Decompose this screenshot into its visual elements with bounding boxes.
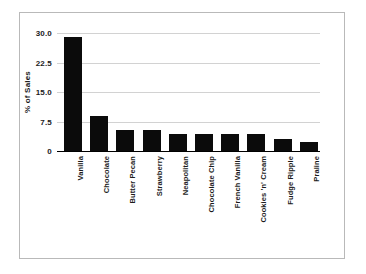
bar-slot bbox=[143, 33, 161, 151]
bar bbox=[64, 37, 82, 151]
bar bbox=[221, 134, 239, 151]
y-axis-tick-label: 22.5 bbox=[36, 58, 52, 67]
x-axis-category-label: Praline bbox=[312, 156, 321, 182]
y-axis-tick-label: 30.0 bbox=[36, 29, 52, 38]
x-axis-category-label: French Vanilla bbox=[233, 156, 242, 208]
bar-slot bbox=[116, 33, 134, 151]
bar-slot bbox=[274, 33, 292, 151]
plot-area: 07.515.022.530.0 bbox=[57, 33, 320, 151]
x-axis-category-label: Vanilla bbox=[76, 156, 85, 180]
y-axis-tick-label: 0 bbox=[47, 147, 52, 156]
x-axis-category-label: Strawberry bbox=[155, 156, 164, 196]
bar bbox=[90, 116, 108, 151]
x-axis-category-label: Fudge Ripple bbox=[286, 156, 295, 205]
bar-slot bbox=[90, 33, 108, 151]
x-axis-category-label: Neapolitan bbox=[181, 156, 190, 195]
x-axis-category-label: Chocolate bbox=[102, 156, 111, 193]
y-axis-tick-label: 15.0 bbox=[36, 88, 52, 97]
bar bbox=[195, 134, 213, 151]
bar bbox=[274, 139, 292, 151]
bar-slot bbox=[221, 33, 239, 151]
bar bbox=[116, 130, 134, 151]
bar bbox=[247, 134, 265, 151]
bar bbox=[143, 130, 161, 151]
y-axis-title: % of Sales bbox=[23, 71, 32, 113]
bar-slot bbox=[300, 33, 318, 151]
bar-slot bbox=[64, 33, 82, 151]
x-axis-category-label: Cookies 'n' Cream bbox=[259, 156, 268, 223]
bar bbox=[300, 142, 318, 151]
y-axis-tick-label: 7.5 bbox=[40, 117, 52, 126]
bar-slot bbox=[195, 33, 213, 151]
bar-series bbox=[57, 33, 320, 151]
x-axis-category-label: Chocolate Chip bbox=[207, 156, 216, 212]
bar-slot bbox=[169, 33, 187, 151]
bar bbox=[169, 134, 187, 151]
chart-figure: % of Sales 07.515.022.530.0 VanillaChoco… bbox=[0, 0, 366, 274]
bar-slot bbox=[247, 33, 265, 151]
x-axis-category-label: Butter Pecan bbox=[128, 156, 137, 203]
